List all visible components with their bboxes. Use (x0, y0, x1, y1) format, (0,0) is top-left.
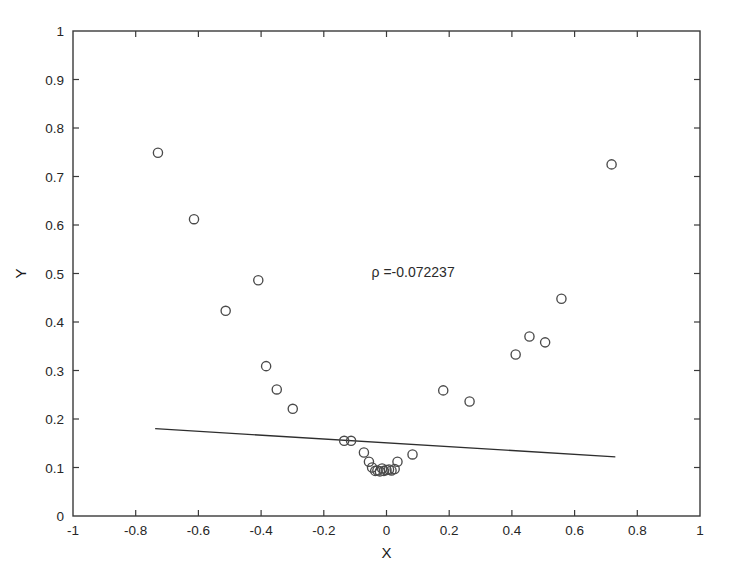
data-point (408, 450, 417, 459)
x-tick-label: 0.6 (565, 523, 584, 538)
x-tick-label: 0.2 (440, 523, 459, 538)
y-tick-label: 0.7 (45, 170, 64, 185)
data-point (511, 350, 520, 359)
y-tick-label: 0.8 (45, 121, 64, 136)
chart-figure: -1-0.8-0.6-0.4-0.200.20.40.60.8100.10.20… (0, 0, 738, 576)
correlation-annotation: ρ =-0.072237 (372, 264, 455, 280)
x-tick-label: 0.4 (503, 523, 522, 538)
x-tick-label: 1 (696, 523, 704, 538)
y-tick-label: 0.9 (45, 73, 64, 88)
y-tick-label: 0.1 (45, 461, 64, 476)
x-tick-label: 0 (383, 523, 391, 538)
x-tick-label: -0.8 (124, 523, 147, 538)
x-axis-title: X (381, 544, 391, 561)
y-tick-label: 0.5 (45, 267, 64, 282)
x-tick-label: 0.8 (628, 523, 647, 538)
data-point (288, 404, 297, 413)
data-point (525, 332, 534, 341)
data-point (272, 385, 281, 394)
data-point (557, 294, 566, 303)
regression-line (155, 429, 615, 457)
data-point (465, 397, 474, 406)
y-tick-label: 0.4 (45, 315, 64, 330)
x-tick-label: -0.4 (249, 523, 273, 538)
data-point (359, 448, 368, 457)
x-tick-label: -1 (67, 523, 79, 538)
x-tick-label: -0.6 (187, 523, 210, 538)
data-point (254, 276, 263, 285)
scatter-plot: -1-0.8-0.6-0.4-0.200.20.40.60.8100.10.20… (0, 0, 738, 576)
data-point (607, 160, 616, 169)
y-tick-label: 0.6 (45, 218, 64, 233)
x-tick-label: -0.2 (312, 523, 335, 538)
data-point (189, 215, 198, 224)
data-point (439, 386, 448, 395)
y-tick-label: 1 (56, 24, 64, 39)
data-point (153, 148, 162, 157)
data-points-group (153, 148, 616, 476)
y-tick-label: 0.2 (45, 412, 64, 427)
y-tick-label: 0.3 (45, 364, 64, 379)
data-point (262, 362, 271, 371)
data-point (541, 338, 550, 347)
y-tick-label: 0 (56, 509, 64, 524)
data-point (221, 306, 230, 315)
y-axis-title: Y (12, 268, 29, 278)
